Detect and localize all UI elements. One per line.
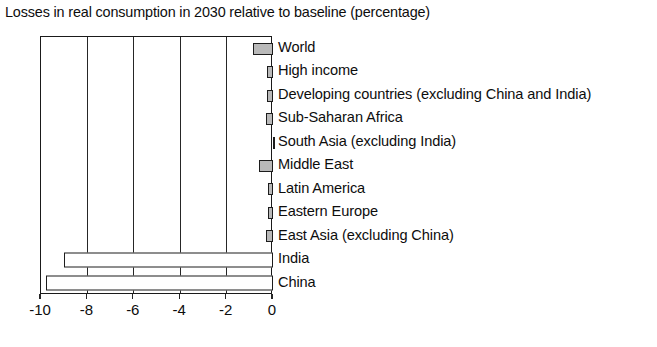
x-tick-label: -2 — [219, 301, 232, 318]
category-label: Sub-Saharan Africa — [278, 106, 403, 129]
x-tick-label: -6 — [126, 301, 139, 318]
x-tick-mark — [39, 294, 40, 299]
bar — [46, 276, 273, 291]
category-label: India — [278, 247, 309, 270]
category-label: Eastern Europe — [278, 200, 378, 223]
x-tick-label: -4 — [173, 301, 186, 318]
bar-row — [41, 60, 271, 83]
x-tick-mark — [225, 294, 226, 299]
category-label: Middle East — [278, 153, 353, 176]
bar-row — [41, 84, 271, 107]
category-label: China — [278, 271, 316, 294]
plot-area — [40, 36, 272, 294]
x-axis: -10-8-6-4-20 — [40, 294, 272, 328]
bars-layer — [41, 37, 271, 293]
bar — [253, 43, 273, 55]
bar-row — [41, 272, 271, 295]
bar — [273, 137, 275, 149]
bar-row — [41, 248, 271, 271]
bar-row — [41, 178, 271, 201]
bar — [267, 66, 273, 78]
x-tick-label: -8 — [80, 301, 93, 318]
category-label: World — [278, 36, 315, 59]
bar — [259, 160, 273, 172]
category-label: Developing countries (excluding China an… — [278, 83, 591, 106]
category-label: High income — [278, 59, 358, 82]
bar-row — [41, 154, 271, 177]
x-tick-label: 0 — [268, 301, 276, 318]
x-tick-label: -10 — [29, 301, 51, 318]
chart-title: Losses in real consumption in 2030 relat… — [5, 4, 430, 20]
category-labels: WorldHigh incomeDeveloping countries (ex… — [278, 36, 657, 294]
x-tick-mark — [179, 294, 180, 299]
bar-row — [41, 107, 271, 130]
x-tick-mark — [271, 294, 272, 299]
bar — [268, 207, 273, 219]
chart-container: Losses in real consumption in 2030 relat… — [0, 0, 657, 347]
bar — [266, 113, 273, 125]
bar — [267, 90, 273, 102]
x-tick-mark — [86, 294, 87, 299]
category-label: Latin America — [278, 177, 365, 200]
bar — [64, 252, 273, 267]
category-label: South Asia (excluding India) — [278, 130, 456, 153]
bar — [268, 183, 273, 195]
category-label: East Asia (excluding China) — [278, 224, 454, 247]
bar — [266, 230, 273, 242]
bar-row — [41, 201, 271, 224]
bar-row — [41, 131, 271, 154]
bar-row — [41, 37, 271, 60]
bar-row — [41, 225, 271, 248]
x-tick-mark — [132, 294, 133, 299]
